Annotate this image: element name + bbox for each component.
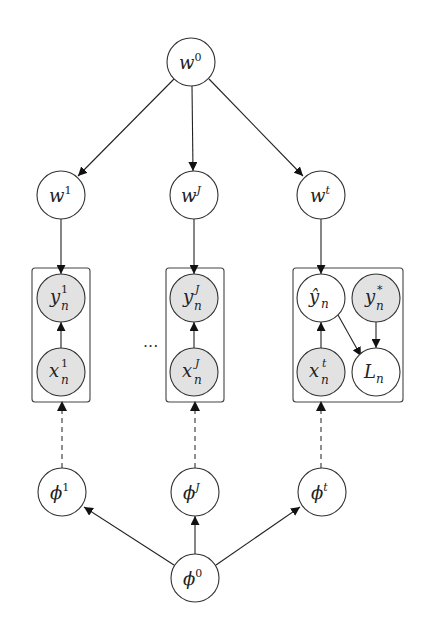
node-phiJ: ϕJ [171, 468, 219, 516]
svg-text:n: n [194, 299, 202, 313]
node-phi1: ϕ1 [38, 468, 86, 516]
svg-text:n: n [61, 299, 69, 313]
edge-w0-wt [209, 79, 303, 176]
edge-w0-wJ [192, 86, 193, 171]
svg-text:x: x [182, 360, 192, 381]
edge-phi0-phi1 [84, 507, 174, 565]
node-yhatn: ŷ n [297, 274, 345, 322]
node-phi0: ϕ0 [171, 554, 219, 602]
svg-text:x: x [309, 360, 319, 381]
svg-text:y: y [364, 286, 376, 307]
svg-text:n: n [376, 372, 384, 386]
node-wJ: wJ [170, 171, 218, 219]
edge-phi0-phit [216, 507, 300, 565]
node-w1: w1 [37, 171, 85, 219]
graphical-model-diagram: w0 w1 wJ wt y 1 n x 1 n y J n x J n [0, 0, 439, 630]
svg-text:1: 1 [61, 357, 68, 370]
svg-text:J: J [193, 357, 200, 370]
svg-text:*: * [377, 283, 383, 296]
svg-text:n: n [321, 373, 329, 387]
svg-text:n: n [61, 373, 69, 387]
svg-text:L: L [363, 361, 376, 382]
svg-text:1: 1 [61, 283, 68, 296]
node-xJn: x J n [170, 348, 218, 396]
svg-text:ŷ: ŷ [308, 286, 320, 307]
svg-text:y: y [49, 286, 61, 307]
svg-text:n: n [321, 297, 329, 311]
node-x1n: x 1 n [37, 348, 85, 396]
svg-text:J: J [193, 283, 200, 296]
node-Ln: L n [352, 348, 400, 396]
edge-w0-w1 [78, 79, 174, 176]
svg-text:x: x [49, 360, 59, 381]
svg-text:t: t [322, 357, 327, 370]
node-yJn: y J n [170, 274, 218, 322]
node-w0: w0 [167, 38, 215, 86]
edge-yhatn-Ln [338, 315, 361, 356]
node-wt: wt [297, 171, 345, 219]
svg-text:n: n [194, 373, 202, 387]
node-ystarn: y * n [352, 274, 400, 322]
node-phit: ϕt [298, 468, 346, 516]
node-xtn: x t n [297, 348, 345, 396]
svg-text:n: n [376, 299, 384, 313]
svg-text:y: y [182, 286, 194, 307]
ellipsis: ... [143, 332, 158, 351]
node-y1n: y 1 n [37, 274, 85, 322]
